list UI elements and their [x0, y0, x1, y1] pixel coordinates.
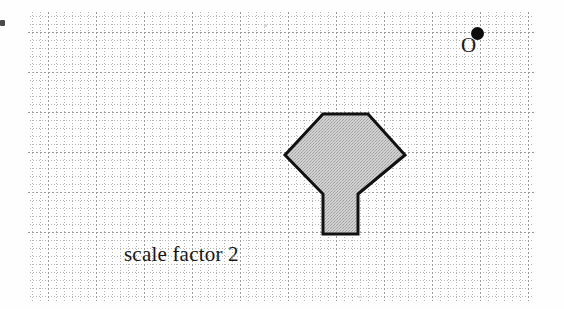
scale-factor-caption: scale factor 2 — [124, 242, 239, 267]
shape-svg — [0, 0, 564, 309]
enlarged-shape — [285, 114, 405, 234]
figure-canvas: O scale factor 2 — [0, 0, 564, 309]
scan-speck — [358, 296, 362, 298]
centre-of-enlargement-label: O — [461, 35, 476, 56]
margin-mark — [0, 20, 5, 26]
scan-speck — [264, 24, 267, 27]
